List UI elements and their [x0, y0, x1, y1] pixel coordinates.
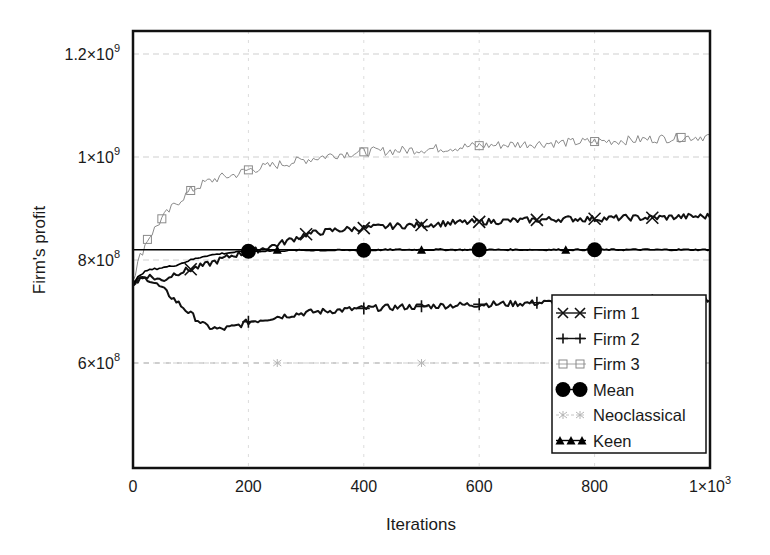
- legend-label: Mean: [593, 381, 634, 399]
- x-tick-label: 1×103: [689, 474, 731, 495]
- x-tick-label: 600: [466, 478, 493, 495]
- x-tick-label: 200: [235, 478, 262, 495]
- y-tick-label: 8×108: [78, 248, 120, 269]
- x-axis-ticks: 02004006008001×103: [129, 474, 732, 495]
- legend-label: Firm 2: [593, 330, 640, 348]
- x-axis-label: Iterations: [386, 515, 456, 534]
- legend: Firm 1Firm 2Firm 3MeanNeoclassicalKeen: [552, 295, 706, 453]
- legend-label: Keen: [593, 432, 632, 450]
- y-tick-label: 1.2×109: [64, 42, 120, 63]
- x-tick-label: 0: [129, 478, 138, 495]
- y-tick-label: 6×108: [78, 351, 120, 372]
- profit-line-chart: 02004006008001×103 6×1088×1081×1091.2×10…: [0, 0, 770, 555]
- y-axis-ticks: 6×1088×1081×1091.2×109: [64, 42, 120, 372]
- y-axis-label: Firm's profit: [30, 206, 49, 295]
- y-tick-label: 1×109: [78, 145, 120, 166]
- x-tick-label: 400: [350, 478, 377, 495]
- x-tick-label: 800: [581, 478, 608, 495]
- legend-label: Neoclassical: [593, 406, 686, 424]
- legend-label: Firm 1: [593, 304, 640, 322]
- legend-label: Firm 3: [593, 355, 640, 373]
